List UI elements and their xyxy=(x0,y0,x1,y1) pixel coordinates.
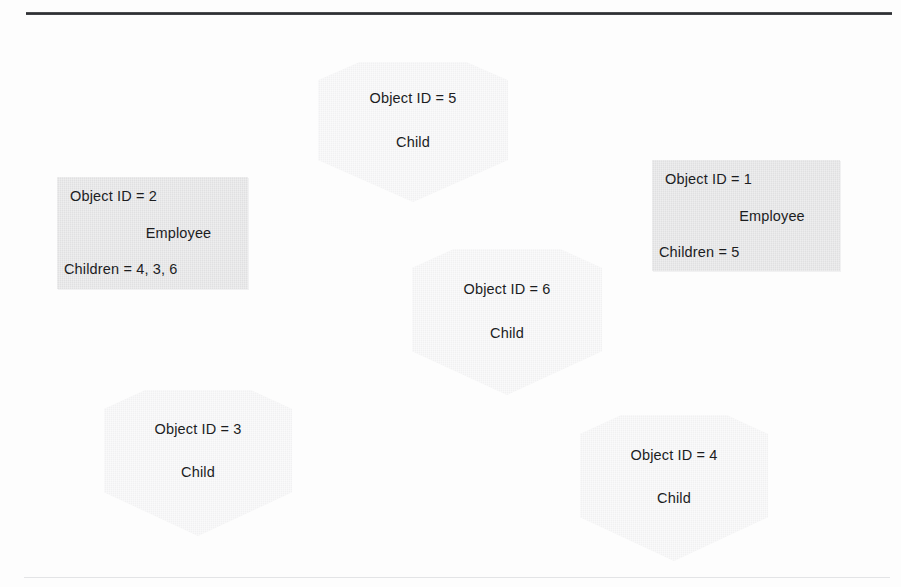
object-node-4-id-label: Object ID = 4 xyxy=(580,447,768,463)
object-node-1-type-label: Employee xyxy=(652,208,866,224)
object-node-1[interactable]: Object ID = 1 Employee Children = 5 xyxy=(652,160,840,271)
hexagon-shape-4 xyxy=(580,415,768,561)
top-rule-divider xyxy=(26,12,892,15)
object-node-6-type-label: Child xyxy=(412,325,602,341)
object-node-6[interactable]: Object ID = 6 Child xyxy=(412,249,602,395)
object-node-6-id-label: Object ID = 6 xyxy=(412,281,602,297)
object-node-3[interactable]: Object ID = 3 Child xyxy=(104,390,292,536)
object-node-2-children-label: Children = 4, 3, 6 xyxy=(57,261,255,277)
hexagon-shape-5 xyxy=(318,62,508,202)
object-node-1-children-label: Children = 5 xyxy=(652,244,847,260)
object-node-5[interactable]: Object ID = 5 Child xyxy=(318,62,508,202)
object-node-2-type-label: Employee xyxy=(57,225,274,241)
hexagon-shape-6 xyxy=(412,249,602,395)
object-node-5-type-label: Child xyxy=(318,134,508,150)
object-node-4[interactable]: Object ID = 4 Child xyxy=(580,415,768,561)
object-node-2-id-label: Object ID = 2 xyxy=(57,188,261,204)
figure-canvas: Object ID = 5 Child Object ID = 2 Employ… xyxy=(0,0,901,587)
object-node-4-type-label: Child xyxy=(580,490,768,506)
object-node-2[interactable]: Object ID = 2 Employee Children = 4, 3, … xyxy=(57,177,248,289)
bottom-rule-divider xyxy=(24,577,890,578)
object-node-3-id-label: Object ID = 3 xyxy=(104,421,292,437)
hexagon-shape-3 xyxy=(104,390,292,536)
object-node-3-type-label: Child xyxy=(104,464,292,480)
object-node-5-id-label: Object ID = 5 xyxy=(318,90,508,106)
object-node-1-id-label: Object ID = 1 xyxy=(652,171,853,187)
